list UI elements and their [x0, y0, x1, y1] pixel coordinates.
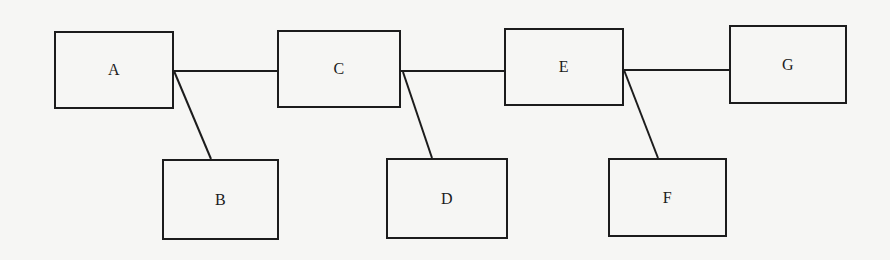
node-g-label: G — [782, 56, 794, 74]
node-e: E — [504, 28, 624, 106]
node-c: C — [277, 30, 401, 108]
node-d-label: D — [441, 190, 453, 208]
node-c-label: C — [333, 60, 344, 78]
node-b: B — [162, 159, 279, 240]
node-f-label: F — [663, 189, 672, 207]
node-d: D — [386, 158, 508, 239]
node-a-label: A — [108, 61, 120, 79]
node-f: F — [608, 158, 727, 237]
edge-c-d — [403, 72, 432, 158]
node-b-label: B — [215, 191, 226, 209]
edge-a-b — [174, 71, 211, 159]
node-a: A — [54, 31, 174, 109]
node-g: G — [729, 25, 847, 104]
node-e-label: E — [559, 58, 569, 76]
edge-e-f — [624, 70, 658, 158]
